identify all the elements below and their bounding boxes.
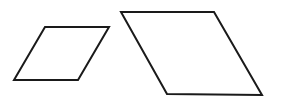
- small-parallelogram: [14, 27, 109, 80]
- large-parallelogram: [121, 12, 262, 95]
- diagram-canvas: [0, 0, 281, 101]
